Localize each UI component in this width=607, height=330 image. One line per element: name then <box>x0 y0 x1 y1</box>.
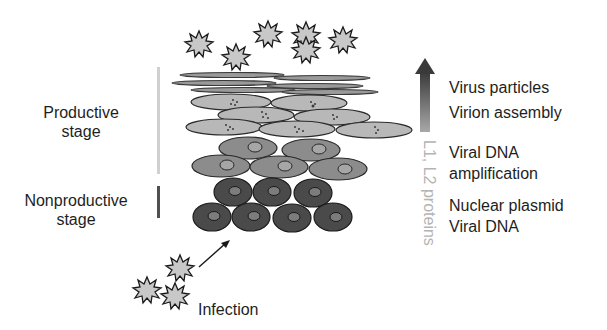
productive-stage-label: Productive stage <box>26 103 136 141</box>
infection-arrow <box>199 240 230 267</box>
nonproductive-label-line2: stage <box>6 210 146 229</box>
nonproductive-stage-label: Nonproductive stage <box>6 191 146 229</box>
nonproductive-stage-bar <box>157 186 160 218</box>
basal-cell-layer <box>193 178 352 232</box>
virus-particles-label: Virus particles <box>449 78 549 98</box>
productive-label-line1: Productive <box>26 103 136 122</box>
productive-stage-bar <box>157 67 160 174</box>
viral-dna-amplification-label-2: amplification <box>449 164 538 184</box>
virion-assembly-label: Virion assembly <box>449 103 562 123</box>
infection-label: Infection <box>198 300 258 320</box>
mid-cell-layer <box>192 137 367 180</box>
upper-cell-layer <box>186 94 412 138</box>
progression-arrow <box>415 58 435 132</box>
viral-dna-basal-label: Viral DNA <box>449 217 519 237</box>
nuclear-plasmid-label: Nuclear plasmid <box>449 196 564 216</box>
productive-label-line2: stage <box>26 122 136 141</box>
viral-dna-amplification-label-1: Viral DNA <box>449 143 519 163</box>
nonproductive-label-line1: Nonproductive <box>6 191 146 210</box>
squame-layer <box>172 73 378 95</box>
infecting-virus-particles <box>133 255 194 309</box>
l1-l2-proteins-label: L1, L2 proteins <box>420 140 438 246</box>
virus-particles-released <box>185 21 357 70</box>
